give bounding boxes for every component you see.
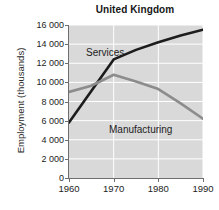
x-axis-tick-mark [69, 178, 70, 182]
series-label-services: Services [86, 47, 124, 58]
y-axis-tick-label: 16 000 [16, 21, 64, 30]
x-axis-tick-label: 1970 [94, 184, 134, 194]
series-label-manufacturing: Manufacturing [109, 124, 172, 135]
y-axis-tick-mark [65, 159, 69, 160]
y-axis-tick-label: 2 000 [16, 154, 64, 163]
y-axis-tick-label: 6 000 [16, 116, 64, 125]
x-axis-tick-label: 1960 [49, 184, 89, 194]
y-axis-tick-mark [65, 25, 69, 26]
x-axis-tick-mark [203, 178, 204, 182]
x-axis-tick-label: 1980 [138, 184, 178, 194]
plot-area: Services Manufacturing 02 0004 0006 0008… [68, 25, 203, 179]
x-axis-tick-label: 1990 [183, 184, 219, 194]
y-axis-tick-mark [65, 140, 69, 141]
y-axis-tick-label: 8 000 [16, 97, 64, 106]
x-axis-tick-mark [114, 178, 115, 182]
y-axis-tick-label: 10 000 [16, 78, 64, 87]
y-axis-tick-mark [65, 82, 69, 83]
x-axis-tick-mark [158, 178, 159, 182]
series-line-manufacturing [69, 75, 203, 119]
y-axis-tick-mark [65, 121, 69, 122]
y-axis-tick-label: 14 000 [16, 40, 64, 49]
chart-container: United Kingdom Employment (thousands) Se… [0, 0, 219, 210]
y-axis-tick-mark [65, 63, 69, 64]
y-axis-tick-label: 12 000 [16, 59, 64, 68]
y-axis-tick-mark [65, 102, 69, 103]
y-axis-tick-label: 4 000 [16, 135, 64, 144]
chart-title: United Kingdom [68, 4, 202, 15]
y-axis-tick-mark [65, 44, 69, 45]
y-axis-tick-label: 0 [16, 174, 64, 183]
